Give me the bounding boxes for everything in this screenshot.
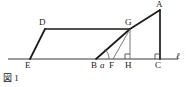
segment-G-A xyxy=(130,10,160,29)
figure-caption: 図 1 xyxy=(3,74,19,83)
right-angle-marker-H xyxy=(125,54,130,59)
segment-F-G xyxy=(113,29,130,59)
vertex-label-C: C xyxy=(155,61,161,70)
geometry-canvas xyxy=(0,0,186,87)
vertex-label-D: D xyxy=(39,18,46,27)
vertex-label-B: B xyxy=(91,61,97,70)
vertex-label-H: H xyxy=(125,61,132,70)
vertex-label-A: A xyxy=(156,0,163,9)
geometry-figure: A D G E B F H C a ℓ 図 1 xyxy=(0,0,186,87)
angle-label-a: a xyxy=(100,61,105,70)
vertex-label-G: G xyxy=(125,18,132,27)
axis-label-l: ℓ xyxy=(176,52,180,61)
vertex-label-E: E xyxy=(25,61,31,70)
vertex-label-F: F xyxy=(109,61,114,70)
segment-E-D xyxy=(30,29,45,59)
